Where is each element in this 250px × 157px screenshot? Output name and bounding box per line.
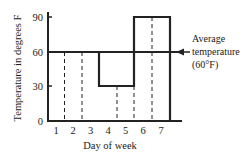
- temperature-chart: Temperature in degrees F 90 60 30 0 Aver…: [0, 0, 250, 157]
- y-tick-30: 30: [33, 81, 44, 92]
- arrow-left-icon: [176, 49, 190, 56]
- annotation-line1: Average: [192, 33, 226, 44]
- x-tick-6: 6: [140, 125, 145, 136]
- annotation-line2: temperature: [192, 46, 240, 57]
- y-tick-60: 60: [33, 47, 44, 58]
- y-axis-label: Temperature in degrees F: [12, 14, 23, 121]
- x-tick-2: 2: [70, 125, 75, 136]
- day-dividers: [65, 17, 153, 121]
- x-tick-4: 4: [105, 125, 111, 136]
- x-tick-7: 7: [158, 125, 163, 136]
- y-tick-0: 0: [38, 116, 43, 127]
- x-tick-5: 5: [123, 125, 128, 136]
- x-tick-1: 1: [53, 125, 58, 136]
- x-axis-label: Day of week: [83, 140, 137, 151]
- y-tick-90: 90: [33, 12, 44, 23]
- annotation-line3: (60°F): [192, 59, 218, 71]
- x-tick-3: 3: [88, 125, 93, 136]
